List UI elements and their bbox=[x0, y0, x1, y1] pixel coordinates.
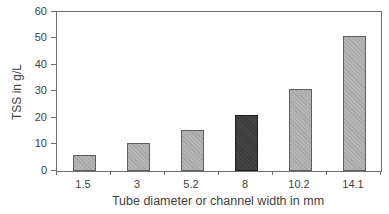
x-tick-mark bbox=[164, 171, 165, 175]
bar bbox=[73, 155, 96, 171]
y-tick-label: 40 bbox=[9, 58, 47, 71]
x-tick-mark bbox=[380, 171, 381, 175]
bar bbox=[181, 130, 204, 171]
bar bbox=[127, 143, 150, 171]
bar bbox=[289, 89, 312, 171]
bar-chart-figure: TSS in g/L Tube diameter or channel widt… bbox=[0, 0, 389, 214]
x-tick-label: 14.1 bbox=[326, 178, 380, 191]
y-tick-label: 20 bbox=[9, 111, 47, 124]
y-tick-mark bbox=[51, 143, 56, 144]
y-tick-label: 60 bbox=[9, 5, 47, 18]
plot-area bbox=[56, 11, 382, 172]
x-axis-title: Tube diameter or channel width in mm bbox=[56, 194, 380, 208]
x-tick-mark bbox=[56, 171, 57, 175]
bar bbox=[235, 115, 258, 171]
y-tick-mark bbox=[51, 90, 56, 91]
x-tick-mark bbox=[218, 171, 219, 175]
x-tick-label: 1.5 bbox=[56, 178, 110, 191]
y-tick-label: 50 bbox=[9, 31, 47, 44]
bar bbox=[343, 36, 366, 171]
y-tick-mark bbox=[51, 117, 56, 118]
x-tick-label: 8 bbox=[218, 178, 272, 191]
x-tick-mark bbox=[326, 171, 327, 175]
x-tick-label: 10.2 bbox=[272, 178, 326, 191]
x-tick-label: 3 bbox=[110, 178, 164, 191]
x-tick-mark bbox=[110, 171, 111, 175]
y-tick-label: 10 bbox=[9, 137, 47, 150]
y-tick-label: 30 bbox=[9, 84, 47, 97]
x-tick-mark bbox=[272, 171, 273, 175]
x-tick-label: 5.2 bbox=[164, 178, 218, 191]
y-tick-mark bbox=[51, 37, 56, 38]
y-tick-label: 0 bbox=[9, 164, 47, 177]
y-tick-mark bbox=[51, 64, 56, 65]
y-tick-mark bbox=[51, 11, 56, 12]
